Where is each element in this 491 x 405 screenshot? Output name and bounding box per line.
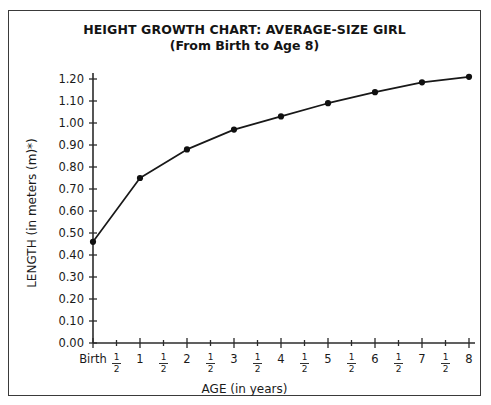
- x-axis-tick-label-fraction-numerator: 1: [208, 352, 214, 362]
- x-axis-tick-label-fraction-numerator: 1: [349, 352, 355, 362]
- x-axis-tick-label-fraction-denominator: 2: [396, 364, 402, 374]
- data-point-marker: [90, 239, 96, 245]
- growth-line-chart: 0.000.100.200.300.400.500.600.700.800.90…: [9, 11, 482, 397]
- y-axis-tick-label: 0.00: [58, 336, 84, 350]
- x-axis-title: AGE (in years): [9, 382, 480, 396]
- data-point-marker: [419, 79, 425, 85]
- y-axis-tick-label: 0.60: [58, 204, 84, 218]
- data-point-marker: [231, 127, 237, 133]
- y-axis-tick-label: 0.80: [58, 160, 84, 174]
- x-axis-tick-label-fraction-numerator: 1: [114, 352, 120, 362]
- x-axis-tick-label-fraction-denominator: 2: [161, 364, 167, 374]
- y-axis-title: LENGTH (in meters (m)*): [25, 118, 39, 308]
- x-axis-tick-label: 1: [136, 352, 143, 366]
- y-axis-tick-label: 1.00: [58, 116, 84, 130]
- x-axis-tick-label: Birth: [79, 352, 107, 366]
- x-axis-tick-label-fraction-numerator: 1: [443, 352, 449, 362]
- x-axis-tick-label: 7: [418, 352, 425, 366]
- data-point-marker: [137, 175, 143, 181]
- x-axis-tick-label: 6: [371, 352, 378, 366]
- x-axis-tick-label-fraction-numerator: 1: [396, 352, 402, 362]
- x-axis-tick-label-fraction-denominator: 2: [302, 364, 308, 374]
- y-axis-tick-label: 0.20: [58, 292, 84, 306]
- data-point-marker: [184, 146, 190, 152]
- x-axis-tick-label-fraction-denominator: 2: [349, 364, 355, 374]
- x-axis-tick-label-fraction-denominator: 2: [114, 364, 120, 374]
- chart-figure-frame: HEIGHT GROWTH CHART: AVERAGE-SIZE GIRL (…: [8, 10, 481, 396]
- y-axis-tick-label: 0.10: [58, 314, 84, 328]
- x-axis-tick-label: 2: [183, 352, 190, 366]
- height-growth-series-line: [93, 77, 469, 242]
- x-axis-tick-label: 5: [324, 352, 331, 366]
- data-point-marker: [466, 74, 472, 80]
- data-point-marker: [278, 113, 284, 119]
- y-axis-tick-label: 1.10: [58, 94, 84, 108]
- x-axis-tick-label-fraction-numerator: 1: [161, 352, 167, 362]
- x-axis-tick-label-fraction-denominator: 2: [255, 364, 261, 374]
- y-axis-tick-label: 0.90: [58, 138, 84, 152]
- x-axis-tick-label-fraction-denominator: 2: [208, 364, 214, 374]
- y-axis-tick-label: 0.50: [58, 226, 84, 240]
- x-axis-tick-label: 3: [230, 352, 237, 366]
- x-axis-tick-label-fraction-numerator: 1: [302, 352, 308, 362]
- data-point-marker: [372, 89, 378, 95]
- x-axis-tick-label: 8: [465, 352, 472, 366]
- y-axis-tick-label: 0.40: [58, 248, 84, 262]
- y-axis-tick-label: 0.30: [58, 270, 84, 284]
- y-axis-tick-label: 0.70: [58, 182, 84, 196]
- x-axis-tick-label: 4: [277, 352, 284, 366]
- data-point-marker: [325, 100, 331, 106]
- x-axis-tick-label-fraction-denominator: 2: [443, 364, 449, 374]
- y-axis-tick-label: 1.20: [58, 72, 84, 86]
- x-axis-tick-label-fraction-numerator: 1: [255, 352, 261, 362]
